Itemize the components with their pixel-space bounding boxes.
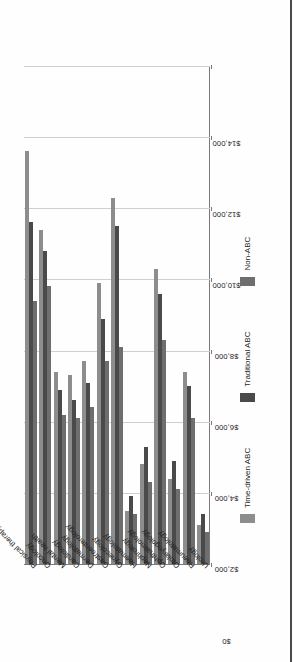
bar-group <box>167 67 181 564</box>
bar-group <box>95 67 109 564</box>
bar-chart-figure: $0$2,000$4,000$6,000$8,000$10,000$12,000… <box>16 21 278 641</box>
bar-group <box>66 67 80 564</box>
bar-group <box>38 67 52 564</box>
bar <box>100 319 104 564</box>
scanned-page: $0$2,000$4,000$6,000$8,000$10,000$12,000… <box>0 0 293 662</box>
bar <box>182 372 186 564</box>
chart-legend: Time-driven ABCTraditional ABCNon-ABC <box>232 103 262 523</box>
bar-group <box>52 67 66 564</box>
bar <box>96 283 100 564</box>
bar-group <box>81 67 95 564</box>
legend-swatch <box>239 393 254 402</box>
legend-swatch <box>239 277 254 286</box>
legend-item[interactable]: Non-ABC <box>239 237 254 286</box>
bar <box>43 251 47 564</box>
legend-label: Non-ABC <box>242 237 251 271</box>
axis-tick-mark <box>211 65 212 69</box>
plot-area <box>24 67 210 565</box>
value-axis-tick-label: $0 <box>191 637 261 646</box>
rotated-figure-wrapper: $0$2,000$4,000$6,000$8,000$10,000$12,000… <box>16 21 278 641</box>
bar <box>53 372 57 564</box>
bar <box>153 269 157 564</box>
legend-label: Traditional ABC <box>242 332 251 387</box>
bar <box>47 287 51 565</box>
bar-group <box>109 67 123 564</box>
bar-group <box>138 67 152 564</box>
bar <box>25 151 29 564</box>
bar <box>82 361 86 564</box>
bar <box>186 386 190 564</box>
bar <box>190 418 194 564</box>
bar-group <box>24 67 38 564</box>
bar-group <box>124 67 138 564</box>
bar <box>114 226 118 564</box>
bar <box>86 383 90 564</box>
bar <box>33 301 37 564</box>
bar <box>118 347 122 564</box>
bar <box>29 223 33 565</box>
legend-label: Time-driven ABC <box>242 448 251 508</box>
bar <box>157 294 161 564</box>
bar <box>39 230 43 564</box>
legend-swatch <box>239 514 254 523</box>
bar <box>110 198 114 564</box>
legend-item[interactable]: Time-driven ABC <box>239 448 254 523</box>
legend-item[interactable]: Traditional ABC <box>239 332 254 402</box>
bar-group <box>152 67 166 564</box>
